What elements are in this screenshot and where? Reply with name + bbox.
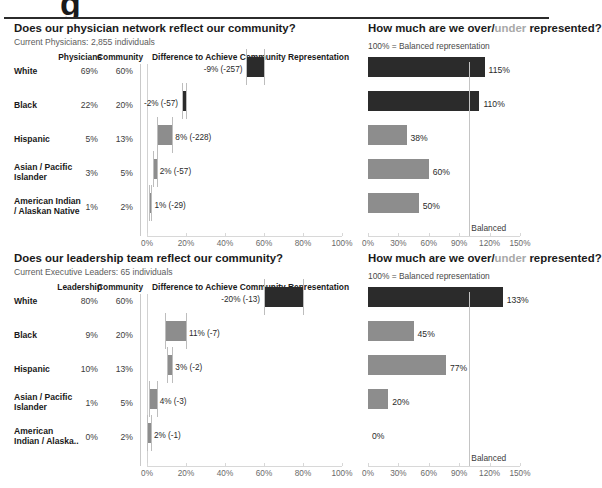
left-axis-tickmark-leadership-1: [186, 463, 187, 466]
left-axis-tickmark-physicians-0: [147, 233, 148, 236]
left-axis-tickmark-leadership-3: [264, 463, 265, 466]
waterfall-connector-right-physicians-3: [157, 151, 158, 187]
header-divider: [4, 17, 549, 19]
row-label2-physicians-3: Islander: [14, 172, 47, 182]
index-value-label-leadership-1: 45%: [418, 329, 435, 339]
row-community-pct-physicians-2: 13%: [103, 134, 133, 144]
column-header-waterfall-leadership: Difference to Achieve Community Represen…: [152, 282, 349, 292]
index-bar-leadership-2: [368, 355, 446, 375]
index-value-label-physicians-4: 50%: [423, 201, 440, 211]
right-axis-tickmark-physicians-2: [429, 233, 430, 236]
left-axis-tickmark-leadership-0: [147, 463, 148, 466]
waterfall-connector-left-physicians-2: [157, 117, 158, 153]
index-bar-physicians-3: [368, 159, 429, 179]
row-group-pct-physicians-3: 3%: [68, 168, 98, 178]
left-axis-tick-leadership-0: 0%: [129, 469, 165, 478]
waterfall-connector-left-leadership-2: [167, 347, 168, 383]
right-panel-note-leadership: 100% = Balanced representation: [368, 271, 490, 281]
waterfall-connector-left-physicians-1: [182, 83, 183, 119]
waterfall-connector-left-physicians-4: [149, 185, 150, 221]
row-label-physicians-2: Hispanic: [14, 134, 50, 144]
waterfall-value-label-physicians-4: 1% (-29): [154, 201, 185, 211]
left-axis-tickmark-physicians-4: [303, 233, 304, 236]
balanced-reference-line-physicians: [469, 62, 470, 236]
column-header-community-physicians: Community: [97, 52, 141, 62]
row-group-pct-leadership-1: 9%: [68, 330, 98, 340]
row-community-pct-leadership-2: 13%: [103, 364, 133, 374]
row-community-pct-leadership-3: 5%: [103, 398, 133, 408]
column-header-group-physicians: Physicians: [54, 52, 102, 62]
waterfall-value-label-leadership-2: 3% (-2): [175, 363, 202, 373]
left-axis-tick-leadership-3: 60%: [246, 469, 282, 478]
cropped-header-artifact: g •: [0, 0, 553, 18]
index-value-label-leadership-3: 20%: [392, 397, 409, 407]
left-axis-tick-physicians-4: 80%: [285, 239, 321, 248]
right-axis-tick-leadership-5: 150%: [502, 469, 538, 478]
waterfall-value-label-leadership-3: 4% (-3): [160, 397, 187, 407]
row-group-pct-leadership-2: 10%: [68, 364, 98, 374]
waterfall-connector-right-leadership-4: [151, 415, 152, 451]
waterfall-connector-right-leadership-1: [186, 313, 187, 349]
right-axis-tickmark-leadership-5: [520, 463, 521, 466]
row-community-pct-leadership-4: 2%: [103, 432, 133, 442]
waterfall-connector-left-leadership-0: [264, 279, 265, 315]
right-axis-tick-physicians-5: 150%: [502, 239, 538, 248]
index-bar-leadership-3: [368, 389, 388, 409]
left-axis-tick-physicians-1: 20%: [168, 239, 204, 248]
waterfall-bar-physicians-0: [246, 57, 264, 77]
waterfall-value-label-leadership-0: -20% (-13): [0, 295, 260, 305]
waterfall-connector-right-physicians-1: [186, 83, 187, 119]
cropped-title-glyph: g: [60, 0, 80, 18]
row-community-pct-physicians-3: 5%: [103, 168, 133, 178]
left-axis-tickmark-leadership-5: [342, 463, 343, 466]
right-panel-title-leadership: How much are we over/under represented?: [368, 252, 602, 265]
right-axis-tickmark-physicians-5: [520, 233, 521, 236]
waterfall-connector-right-leadership-3: [157, 381, 158, 417]
index-value-label-physicians-2: 38%: [411, 133, 428, 143]
waterfall-value-label-leadership-1: 11% (-7): [189, 329, 220, 339]
panel-title-physicians: Does our physician network reflect our c…: [14, 22, 296, 35]
right-axis-tickmark-physicians-3: [459, 233, 460, 236]
table-waterfall-divider-physicians: [140, 64, 141, 236]
left-axis-tickmark-physicians-3: [264, 233, 265, 236]
index-bar-leadership-0: [368, 287, 503, 307]
left-axis-line-physicians: [147, 236, 342, 237]
waterfall-bar-leadership-0: [264, 287, 303, 307]
waterfall-connector-left-physicians-3: [153, 151, 154, 187]
right-axis-tickmark-leadership-4: [490, 463, 491, 466]
left-axis-line-leadership: [147, 466, 342, 467]
waterfall-value-label-physicians-3: 2% (-57): [160, 167, 191, 177]
index-value-label-leadership-0: 133%: [507, 295, 529, 305]
waterfall-connector-left-leadership-3: [149, 381, 150, 417]
waterfall-bar-leadership-3: [149, 389, 157, 409]
index-value-label-physicians-1: 110%: [483, 99, 504, 109]
right-axis-tickmark-leadership-0: [368, 463, 369, 466]
waterfall-bar-physicians-2: [157, 125, 173, 145]
left-axis-tick-physicians-3: 60%: [246, 239, 282, 248]
index-value-label-physicians-0: 115%: [489, 65, 510, 75]
row-community-pct-physicians-4: 2%: [103, 202, 133, 212]
waterfall-connector-left-leadership-4: [147, 415, 148, 451]
waterfall-value-label-leadership-4: 2% (-1): [154, 431, 181, 441]
index-bar-physicians-4: [368, 193, 419, 213]
waterfall-connector-right-physicians-0: [264, 49, 265, 85]
waterfall-connector-right-physicians-2: [172, 117, 173, 153]
left-axis-tick-physicians-2: 40%: [207, 239, 243, 248]
waterfall-connector-left-physicians-0: [246, 49, 247, 85]
right-axis-tickmark-physicians-1: [398, 233, 399, 236]
right-axis-tickmark-leadership-1: [398, 463, 399, 466]
index-value-label-leadership-4: 0%: [372, 431, 384, 441]
left-axis-tickmark-physicians-2: [225, 233, 226, 236]
index-value-label-physicians-3: 60%: [433, 167, 450, 177]
waterfall-connector-right-leadership-0: [303, 279, 304, 315]
index-bar-leadership-1: [368, 321, 414, 341]
left-axis-tick-leadership-4: 80%: [285, 469, 321, 478]
row-group-pct-physicians-2: 5%: [68, 134, 98, 144]
panel-subtitle-leadership: Current Executive Leaders: 65 individual…: [14, 267, 173, 278]
panel-title-leadership: Does our leadership team reflect our com…: [14, 252, 283, 265]
waterfall-connector-right-physicians-4: [151, 185, 152, 221]
left-axis-tickmark-leadership-4: [303, 463, 304, 466]
right-axis-line-leadership: [368, 466, 520, 467]
column-header-community-leadership: Community: [97, 282, 141, 292]
right-axis-tickmark-physicians-4: [490, 233, 491, 236]
